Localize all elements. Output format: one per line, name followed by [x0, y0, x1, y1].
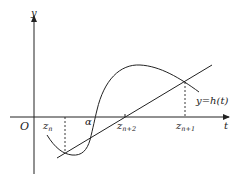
label-z-n-plus-2-sub: n+2 — [122, 125, 136, 133]
origin-label: O — [20, 121, 29, 132]
curve-h — [47, 65, 199, 155]
secant-line — [57, 65, 212, 158]
curve-label-rhs: h(t) — [210, 95, 228, 106]
label-z-n-sub: n — [48, 125, 52, 133]
diagram-canvas — [0, 0, 239, 181]
label-z-n-plus-1-sub: n+1 — [181, 125, 195, 133]
label-z-n-plus-2: zn+2 — [117, 121, 136, 133]
y-axis-label: y — [31, 8, 37, 18]
curve-label-eq: = — [202, 95, 210, 106]
label-z-n-plus-1: zn+1 — [176, 121, 195, 133]
label-alpha: α — [85, 117, 92, 127]
label-z-n: zn — [43, 121, 52, 133]
curve-label: y=h(t) — [196, 96, 228, 106]
x-axis-label: t — [224, 121, 228, 131]
